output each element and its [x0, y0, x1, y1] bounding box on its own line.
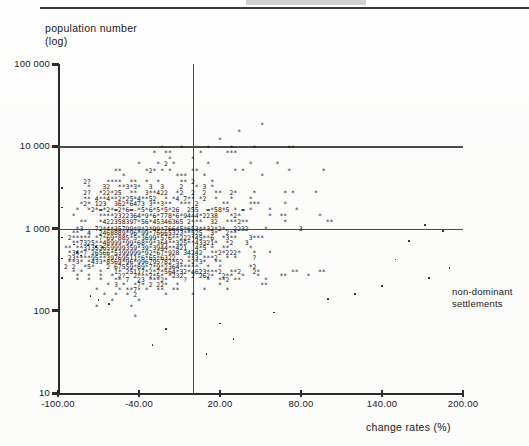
- scatter-point: [61, 237, 63, 239]
- scatter-point: [428, 277, 430, 279]
- scatter-point: [449, 267, 451, 269]
- y-axis-title-line1: population number: [45, 22, 137, 34]
- scatter-plot-area: * * * * * * * * ** * ** * ***: [58, 64, 463, 394]
- scatter-point: [152, 344, 154, 346]
- scatter-point: [61, 207, 63, 209]
- scatter-point: [395, 259, 397, 261]
- scatter-point: [327, 298, 329, 300]
- scatter-point: [206, 353, 208, 355]
- plot-glyph-row: *: [64, 137, 222, 143]
- scatter-point: [61, 277, 63, 279]
- scatter-point: [61, 187, 63, 189]
- y-tick-label-0: 100 000: [0, 58, 50, 69]
- scatter-point: [273, 312, 275, 314]
- y-tick-label-2: 1 000: [0, 223, 50, 234]
- x-tick-label-0: -100.00: [23, 398, 93, 409]
- scatter-point: [233, 338, 235, 340]
- scatter-point: [219, 323, 221, 325]
- scatter-point: [424, 224, 426, 226]
- figure-root: population number(log) 100 00010 0001 00…: [0, 0, 529, 446]
- x-tick-label-1: -40.00: [104, 398, 174, 409]
- plot-glyph-row: *: [64, 129, 241, 135]
- plot-glyph-row: * *: [64, 304, 133, 310]
- scatter-point: [95, 246, 97, 248]
- scatter-point: [354, 293, 356, 295]
- cluster-annotation-line2: settlements: [452, 298, 503, 309]
- cluster-annotation-line1: non-dominant: [452, 286, 513, 297]
- y-tick-label-4: 10: [0, 387, 50, 398]
- y-axis-title: population number(log): [45, 22, 137, 48]
- x-axis-title: change rates (%): [366, 421, 451, 433]
- plot-glyph-row: *: [64, 314, 137, 320]
- scatter-point: [61, 258, 63, 260]
- y-tick-label-3: 100: [0, 305, 50, 316]
- scatter-point: [408, 240, 410, 242]
- scatter-point: [381, 285, 383, 287]
- y-tick-label-1: 10 000: [0, 140, 50, 151]
- x-tick-label-2: 20.00: [185, 398, 255, 409]
- scatter-point: [165, 328, 167, 330]
- x-tick-label-4: 140.00: [347, 398, 417, 409]
- scatter-point: [76, 251, 78, 253]
- page-header-rule: [40, 7, 529, 9]
- x-tick-label-5: 200.00: [428, 398, 498, 409]
- y-axis-title-line2: (log): [45, 35, 68, 47]
- scatter-point: [442, 230, 444, 232]
- cluster-annotation: non-dominantsettlements: [452, 286, 513, 310]
- x-tick-label-3: 80.00: [266, 398, 336, 409]
- cropped-header-text: [246, 0, 366, 5]
